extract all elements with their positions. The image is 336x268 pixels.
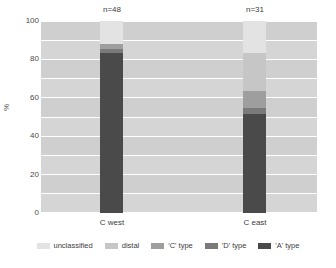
gridline [41, 40, 317, 41]
y-tick-label-100: 100 [11, 17, 39, 25]
background-band [41, 21, 317, 40]
legend-item-c-type[interactable]: 'C' type [151, 242, 193, 250]
x-tick-label-c-east: C east [215, 218, 295, 227]
bar-c-east[interactable] [243, 21, 266, 213]
y-tick-label-80: 80 [11, 55, 39, 63]
y-axis-title: % [2, 104, 11, 111]
bar-segment [100, 49, 123, 53]
y-axis: 100 80 60 40 20 0 [6, 0, 39, 268]
y-tick-label-40: 40 [11, 132, 39, 140]
gridline [41, 155, 317, 156]
legend-label: 'C' type [168, 242, 193, 250]
gridline [41, 174, 317, 175]
gridline [41, 212, 317, 213]
y-tick-label-20: 20 [11, 171, 39, 179]
legend-label: 'D' type [222, 242, 247, 250]
bar-segment [100, 44, 123, 49]
background-band [41, 59, 317, 78]
legend-item-a-type[interactable]: 'A' type [258, 242, 299, 250]
background-band [41, 136, 317, 155]
legend: unclassified distal 'C' type 'D' type 'A… [0, 239, 336, 253]
legend-swatch-icon [151, 243, 164, 249]
bar-segment [100, 21, 123, 44]
plot-area [41, 21, 317, 213]
bar-segment [243, 91, 266, 108]
legend-item-d-type[interactable]: 'D' type [205, 242, 247, 250]
bar-c-west[interactable] [100, 21, 123, 213]
y-tick-label-60: 60 [11, 94, 39, 102]
bar-segment [243, 108, 266, 114]
y-tick-label-0: 0 [11, 209, 39, 217]
bar-segment [100, 53, 123, 213]
legend-swatch-icon [205, 243, 218, 249]
gridline [41, 117, 317, 118]
gridline [41, 78, 317, 79]
count-label-c-west: n=48 [72, 5, 152, 14]
gridline [41, 59, 317, 60]
legend-item-distal[interactable]: distal [105, 242, 140, 250]
gridline [41, 136, 317, 137]
bar-segment [243, 114, 266, 213]
bar-segment [243, 53, 266, 91]
bar-segment [243, 21, 266, 53]
gridline [41, 97, 317, 98]
legend-label: unclassified [54, 242, 93, 250]
legend-label: 'A' type [275, 242, 299, 250]
gridline [41, 21, 317, 22]
legend-swatch-icon [37, 243, 50, 249]
x-tick-label-c-west: C west [72, 218, 152, 227]
legend-swatch-icon [105, 243, 118, 249]
gridline [41, 193, 317, 194]
legend-item-unclassified[interactable]: unclassified [37, 242, 93, 250]
legend-swatch-icon [258, 243, 271, 249]
stacked-bar-chart: 100 80 60 40 20 0 % n=48 n=31 C west C e… [0, 0, 336, 268]
background-band [41, 175, 317, 194]
legend-label: distal [122, 242, 140, 250]
background-band [41, 98, 317, 117]
count-label-c-east: n=31 [215, 5, 295, 14]
